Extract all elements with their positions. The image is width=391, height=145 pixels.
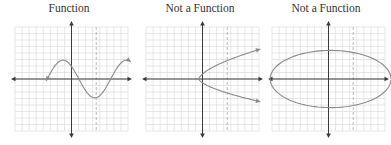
y-axis-up-arrow — [200, 21, 205, 26]
panel-not-function-ellipse: Not a Function — [261, 0, 391, 145]
curve-end-arrow — [256, 98, 261, 102]
y-axis-down-arrow — [326, 134, 331, 139]
graph-ellipse — [261, 0, 391, 145]
panel-function: Function — [4, 0, 134, 145]
x-axis-left-arrow — [11, 77, 16, 82]
panel-not-function-parabola: Not a Function — [135, 0, 265, 145]
y-axis-up-arrow — [326, 21, 331, 26]
y-axis-up-arrow — [69, 21, 74, 26]
y-axis-down-arrow — [200, 134, 205, 139]
x-axis-right-arrow — [128, 77, 133, 82]
x-axis-right-arrow — [385, 77, 390, 82]
graph-function — [4, 0, 134, 145]
x-axis-left-arrow — [142, 77, 147, 82]
y-axis-down-arrow — [69, 134, 74, 139]
graph-parabola — [135, 0, 265, 145]
curve-sideways-parabola — [199, 49, 260, 102]
